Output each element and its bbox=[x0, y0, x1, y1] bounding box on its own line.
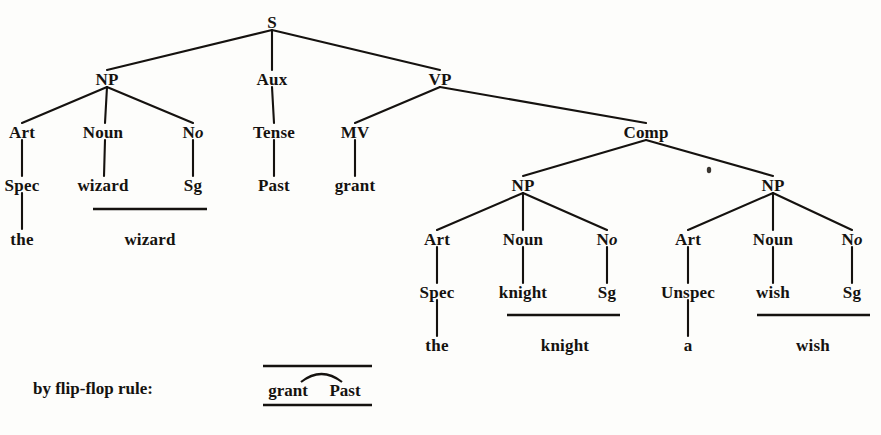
tree-node-wizard-level3-1: wizard bbox=[77, 177, 128, 194]
flip-flop-caption: by flip-flop rule: bbox=[33, 380, 153, 397]
tree-node-knight-level5-1: knight bbox=[499, 284, 547, 301]
tree-node-no-level4-5: No bbox=[841, 231, 862, 248]
tree-branch-7 bbox=[355, 87, 440, 123]
tree-node-tense-level2-3: Tense bbox=[253, 124, 295, 141]
tree-node-art-level4-3: Art bbox=[675, 231, 701, 248]
tree-branch-15 bbox=[646, 140, 773, 176]
tree-node-spec-level3-0: Spec bbox=[5, 177, 40, 194]
tree-branch-5 bbox=[107, 87, 193, 123]
node-label-head: N bbox=[182, 123, 194, 142]
tree-branch-16 bbox=[437, 193, 523, 230]
node-label-italic-tail: o bbox=[609, 230, 618, 249]
tree-branch-4 bbox=[105, 87, 107, 123]
tree-node-knight-level6-3: knight bbox=[541, 337, 589, 354]
tree-branch-10 bbox=[104, 140, 105, 176]
tree-node-a-level6-4: a bbox=[684, 337, 693, 354]
tree-node-grant-level3-4: grant bbox=[335, 177, 376, 194]
tree-node-comp-level2-5: Comp bbox=[623, 124, 668, 141]
tree-node-aux-level1-1: Aux bbox=[257, 71, 288, 88]
tree-branch-3 bbox=[22, 87, 107, 123]
tree-node-sg-level5-5: Sg bbox=[843, 284, 861, 301]
tree-node-s-root-0: S bbox=[267, 14, 277, 31]
node-label-italic-tail: o bbox=[854, 230, 863, 249]
tree-branch-6 bbox=[272, 87, 274, 123]
syntax-tree-figure: SNPAuxVPArtNounNoTenseMVCompSpecwizardSg… bbox=[0, 0, 881, 435]
scan-speck bbox=[707, 167, 711, 173]
tree-branch-0 bbox=[107, 30, 272, 70]
tree-node-wish-level6-5: wish bbox=[796, 337, 830, 354]
tree-node-past-level3-3: Past bbox=[258, 177, 290, 194]
tree-node-wizard-level6-1: wizard bbox=[124, 231, 175, 248]
tree-branch-21 bbox=[773, 193, 852, 230]
tree-node-vp-level1-2: VP bbox=[428, 71, 451, 88]
tree-node-wish-level5-4: wish bbox=[756, 284, 790, 301]
tree-node-no-level4-2: No bbox=[596, 231, 617, 248]
tree-node-np-level3-6: NP bbox=[761, 177, 784, 194]
tree-node-noun-level4-1: Noun bbox=[503, 231, 544, 248]
tree-branch-8 bbox=[440, 87, 646, 123]
tree-node-np-level3-5: NP bbox=[511, 177, 534, 194]
tree-node-mv-level2-4: MV bbox=[341, 124, 370, 141]
tree-branch-lines bbox=[0, 0, 881, 435]
node-label-head: N bbox=[596, 230, 608, 249]
node-label-italic-tail: o bbox=[195, 123, 204, 142]
tree-node-art-level4-0: Art bbox=[424, 231, 450, 248]
tree-node-no-level2-2: No bbox=[182, 124, 203, 141]
tree-branch-2 bbox=[272, 30, 440, 70]
scan-speck-group bbox=[707, 167, 711, 173]
tree-branch-14 bbox=[523, 140, 646, 176]
tree-node-the-level6-0: the bbox=[10, 231, 33, 248]
tree-node-sg-level3-2: Sg bbox=[184, 177, 202, 194]
tree-node-art-level2-0: Art bbox=[9, 124, 35, 141]
tree-node-noun-level4-4: Noun bbox=[753, 231, 794, 248]
tree-node-unspec-level5-3: Unspec bbox=[661, 284, 715, 301]
tree-node-the-level6-2: the bbox=[425, 337, 448, 354]
tree-node-sg-level5-2: Sg bbox=[598, 284, 616, 301]
underline-group bbox=[93, 209, 870, 315]
tree-branch-19 bbox=[688, 193, 773, 230]
tree-node-np-level1-0: NP bbox=[95, 71, 118, 88]
tree-node-spec-level5-0: Spec bbox=[420, 284, 455, 301]
flip-flop-word-past: Past bbox=[329, 382, 360, 399]
node-label-head: N bbox=[841, 230, 853, 249]
flip-flop-word-grant: grant bbox=[268, 382, 308, 399]
tree-node-noun-level2-1: Noun bbox=[83, 124, 124, 141]
tree-branch-18 bbox=[523, 193, 607, 230]
